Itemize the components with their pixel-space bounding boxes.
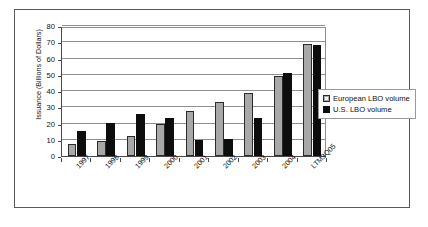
bar-european-2002 — [215, 102, 224, 156]
y-tick-label-50: 50 — [33, 72, 55, 80]
y-tick-label-80: 80 — [33, 23, 55, 31]
y-tick-label-30: 30 — [33, 104, 55, 112]
y-tick-mark-10 — [58, 141, 61, 142]
bar-european-1999 — [127, 136, 136, 156]
gridline-80 — [62, 25, 325, 26]
bar-us-2004 — [283, 73, 292, 156]
y-tick-mark-20 — [58, 125, 61, 126]
plot-area — [61, 27, 326, 157]
chart-figure-frame: Issuance (Billions of Dollars) 010203040… — [14, 9, 410, 208]
bar-european-2004 — [274, 76, 283, 156]
y-tick-label-20: 20 — [33, 121, 55, 129]
bar-european-2001 — [186, 111, 195, 156]
y-tick-label-40: 40 — [33, 88, 55, 96]
bar-european-2003 — [244, 93, 253, 156]
chart-legend: European LBO volumeU.S. LBO volume — [318, 89, 416, 119]
bar-european-LTM3Q05 — [303, 44, 312, 156]
y-tick-mark-50 — [58, 76, 61, 77]
bar-us-2003 — [254, 118, 263, 156]
y-tick-label-60: 60 — [33, 56, 55, 64]
y-tick-mark-40 — [58, 92, 61, 93]
y-tick-label-70: 70 — [33, 39, 55, 47]
legend-item-us: U.S. LBO volume — [323, 104, 410, 115]
legend-label: U.S. LBO volume — [333, 106, 392, 114]
legend-item-european: European LBO volume — [323, 93, 410, 104]
y-tick-label-10: 10 — [33, 137, 55, 145]
bar-us-1998 — [106, 123, 115, 156]
bar-series-container — [62, 28, 325, 156]
bar-european-2000 — [156, 124, 165, 157]
legend-swatch-us-icon — [323, 106, 330, 113]
x-tick-mark-0 — [61, 158, 62, 162]
bar-us-2000 — [165, 118, 174, 156]
legend-label: European LBO volume — [333, 95, 410, 103]
legend-swatch-european-icon — [323, 95, 330, 102]
bar-european-1997 — [68, 144, 77, 156]
y-tick-mark-80 — [58, 27, 61, 28]
bar-european-1998 — [97, 141, 106, 156]
bar-us-1999 — [136, 114, 145, 156]
y-tick-mark-30 — [58, 108, 61, 109]
y-tick-mark-70 — [58, 43, 61, 44]
y-tick-label-0: 0 — [33, 153, 55, 161]
y-tick-mark-60 — [58, 60, 61, 61]
